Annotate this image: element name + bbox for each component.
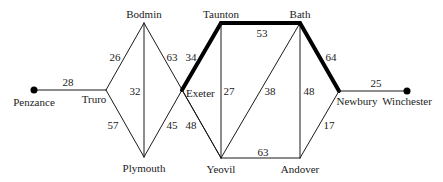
edge-weight-newbury-winchester: 25 bbox=[371, 77, 383, 89]
node-label-taunton: Taunton bbox=[203, 8, 239, 20]
graph-canvas: 28265732634534485327384864631725 Penzanc… bbox=[0, 0, 443, 182]
weights-layer: 28265732634534485327384864631725 bbox=[63, 27, 383, 158]
node-dot-winchester bbox=[404, 88, 411, 95]
node-label-bath: Bath bbox=[290, 8, 311, 20]
edge-weight-yeovil-andover: 63 bbox=[258, 146, 270, 158]
edge-weight-penzance-truro: 28 bbox=[63, 76, 75, 88]
edge-weight-exeter-taunton: 34 bbox=[186, 51, 198, 63]
edge-weight-bath-newbury: 64 bbox=[326, 51, 338, 63]
edge-weight-plymouth-exeter: 45 bbox=[167, 119, 179, 131]
edge-weight-andover-newbury: 17 bbox=[324, 119, 336, 131]
edge-weight-bath-yeovil: 38 bbox=[265, 85, 277, 97]
node-label-newbury: Newbury bbox=[337, 95, 378, 107]
edge-weight-exeter-yeovil: 48 bbox=[186, 119, 198, 131]
edge-weight-bodmin-yeovil: 63 bbox=[167, 51, 179, 63]
edge-weight-taunton-yeovil: 27 bbox=[224, 85, 236, 97]
node-label-andover: Andover bbox=[281, 163, 320, 175]
node-label-bodmin: Bodmin bbox=[126, 8, 162, 20]
node-label-yeovil: Yeovil bbox=[207, 163, 236, 175]
edge-weight-taunton-bath: 53 bbox=[257, 27, 269, 39]
node-label-exeter: Exeter bbox=[186, 87, 215, 99]
edge-weight-truro-plymouth: 57 bbox=[108, 119, 120, 131]
route-network-diagram: 28265732634534485327384864631725 Penzanc… bbox=[0, 0, 443, 182]
edge-weight-truro-bodmin: 26 bbox=[110, 51, 122, 63]
edge-weight-bath-andover: 48 bbox=[304, 85, 316, 97]
node-label-winchester: Winchester bbox=[382, 95, 432, 107]
node-label-penzance: Penzance bbox=[13, 96, 55, 108]
node-label-plymouth: Plymouth bbox=[123, 162, 166, 174]
edges-layer bbox=[34, 23, 407, 158]
edge-weight-bodmin-plymouth: 32 bbox=[130, 85, 141, 97]
node-label-truro: Truro bbox=[82, 93, 107, 105]
node-dot-penzance bbox=[31, 87, 38, 94]
